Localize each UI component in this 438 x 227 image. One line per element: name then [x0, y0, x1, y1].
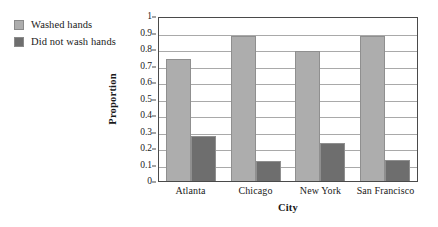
bar	[295, 51, 320, 181]
x-axis-tick-label: San Francisco	[353, 185, 418, 196]
y-axis-tick-mark	[152, 83, 156, 84]
legend-item-washed-hands: Washed hands	[14, 17, 134, 32]
y-axis-tick-mark	[152, 99, 156, 100]
legend-label-washed-hands: Washed hands	[31, 19, 92, 30]
x-axis-tick-labels: AtlantaChicagoNew YorkSan Francisco	[158, 185, 418, 196]
x-axis-tick-label: Atlanta	[158, 185, 223, 196]
legend-swatch-washed-hands	[14, 20, 24, 30]
y-axis-tick-mark	[152, 132, 156, 133]
y-axis-tick-labels: 10.90.80.70.60.50.40.30.20.10	[130, 17, 156, 182]
bar	[320, 143, 345, 181]
y-axis-tick-label: 0.5	[140, 95, 152, 105]
legend-swatch-did-not-wash-hands	[14, 37, 24, 47]
bar-chart-figure: Washed hands Did not wash hands Proporti…	[0, 0, 438, 227]
legend-item-did-not-wash-hands: Did not wash hands	[14, 34, 134, 49]
y-axis-tick-mark	[152, 116, 156, 117]
x-axis-tick-label: New York	[288, 185, 353, 196]
y-axis-tick-label: 0.3	[140, 128, 152, 138]
bar-group	[353, 18, 418, 181]
y-axis-title: Proportion	[107, 73, 118, 124]
y-axis-tick-mark	[152, 182, 156, 183]
x-axis-title: City	[158, 202, 418, 213]
y-axis-tick-label: 0.4	[140, 111, 152, 121]
bar	[385, 160, 410, 181]
y-axis-tick-mark	[152, 17, 156, 18]
bar	[191, 136, 216, 181]
bar-group	[224, 18, 289, 181]
y-axis-tick-label: 0.1	[140, 161, 152, 171]
bar-group	[288, 18, 353, 181]
y-axis-tick-label: 0.6	[140, 78, 152, 88]
bars-layer	[159, 18, 417, 181]
y-axis-tick-label: 0.9	[140, 29, 152, 39]
bar	[256, 161, 281, 181]
y-axis-tick-mark	[152, 66, 156, 67]
bar	[360, 36, 385, 181]
y-axis-tick-label: 0.8	[140, 45, 152, 55]
chart-legend: Washed hands Did not wash hands	[14, 17, 134, 51]
x-axis-tick-label: Chicago	[223, 185, 288, 196]
y-axis-tick-mark	[152, 50, 156, 51]
y-axis-tick-mark	[152, 149, 156, 150]
y-axis-tick-mark	[152, 165, 156, 166]
bar	[231, 36, 256, 181]
bar-group	[159, 18, 224, 181]
y-axis-tick-label: 0.2	[140, 144, 152, 154]
y-axis-tick-mark	[152, 33, 156, 34]
y-axis-tick-label: 0.7	[140, 62, 152, 72]
plot-area	[158, 17, 418, 182]
legend-label-did-not-wash-hands: Did not wash hands	[31, 36, 116, 47]
bar	[166, 59, 191, 181]
